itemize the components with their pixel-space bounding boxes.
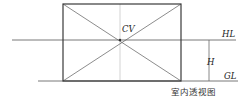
cv-label: CV [122, 24, 136, 34]
gl-label: GL [224, 71, 237, 81]
diagram-caption: 室内透视图 [171, 87, 216, 97]
hl-label: HL [221, 29, 235, 39]
h-label: H [206, 57, 215, 67]
interior-perspective-diagram: CV HL H GL 室内透视图 [0, 0, 249, 102]
center-of-vision-point [119, 39, 121, 41]
